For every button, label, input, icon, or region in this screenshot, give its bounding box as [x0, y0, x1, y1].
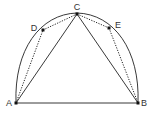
point-a-marker [15, 102, 18, 105]
point-b-marker [137, 102, 140, 105]
point-d-marker [42, 29, 45, 32]
point-c-marker [76, 13, 79, 16]
label-b: B [141, 98, 147, 108]
label-c: C [74, 2, 81, 12]
label-e: E [115, 20, 121, 30]
dotted-segment-ad [16, 30, 43, 103]
label-a: A [6, 98, 12, 108]
point-e-marker [108, 27, 111, 30]
geometry-diagram: A B C D E [0, 0, 153, 115]
label-d: D [31, 23, 38, 33]
dotted-segment-eb [109, 28, 138, 103]
segment-ac [16, 14, 77, 103]
